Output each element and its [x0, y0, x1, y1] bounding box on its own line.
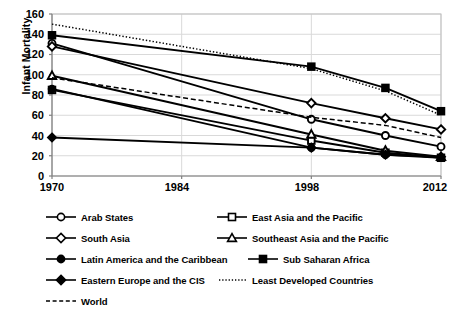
legend-item-eastern-europe-and-the-cis[interactable]: Eastern Europe and the CIS	[44, 272, 205, 288]
marker-open-circle	[438, 143, 445, 150]
legend-marker-open-circle	[44, 210, 78, 224]
x-tick-1984: 1984	[147, 181, 207, 193]
series-line	[52, 89, 441, 158]
legend-marker-filled-circle	[44, 252, 78, 266]
legend-label-world: World	[81, 296, 108, 307]
plot-area: Infant Mortality 160 140 120 100 80 60 4…	[0, 0, 453, 200]
plot-svg	[0, 0, 453, 200]
legend-marker-open-square	[215, 210, 249, 224]
marker-open-triangle	[307, 130, 315, 138]
legend-marker-open-triangle	[215, 231, 249, 245]
legend-item-south-asia[interactable]: South Asia	[44, 230, 130, 246]
legend-label-latin-america-and-the-caribbean: Latin America and the Caribbean	[81, 254, 227, 265]
marker-filled-diamond	[48, 134, 56, 142]
legend-marker-dashed-line	[44, 294, 78, 308]
legend-label-eastern-europe-and-the-cis: Eastern Europe and the CIS	[81, 275, 205, 286]
legend-label-sub-saharan-africa: Sub Saharan Africa	[283, 254, 369, 265]
x-tick-1998: 1998	[277, 181, 337, 193]
marker-open-circle	[382, 132, 389, 139]
marker-filled-circle	[49, 86, 56, 93]
legend-item-world[interactable]: World	[44, 293, 108, 309]
legend-item-arab-states[interactable]: Arab States	[44, 209, 133, 225]
marker-open-diamond	[307, 99, 315, 107]
legend-marker-dotted-line	[215, 273, 249, 287]
x-tick-2012: 2012	[405, 181, 453, 193]
legend-label-southeast-asia-and-the-pacific: Southeast Asia and the Pacific	[252, 233, 388, 244]
legend-marker-open-diamond	[44, 231, 78, 245]
legend-item-sub-saharan-africa[interactable]: Sub Saharan Africa	[246, 251, 369, 267]
legend-label-south-asia: South Asia	[81, 233, 130, 244]
marker-filled-square	[49, 32, 56, 39]
legend-item-latin-america-and-the-caribbean[interactable]: Latin America and the Caribbean	[44, 251, 227, 267]
legend-label-arab-states: Arab States	[81, 212, 133, 223]
legend-label-east-asia-and-the-pacific: East Asia and the Pacific	[252, 212, 363, 223]
chart-legend: Arab States East Asia and the Pacific So…	[0, 200, 453, 303]
marker-open-diamond	[437, 125, 445, 133]
legend-item-southeast-asia-and-the-pacific[interactable]: Southeast Asia and the Pacific	[215, 230, 388, 246]
legend-marker-filled-square	[246, 252, 280, 266]
legend-label-least-developed-countries: Least Developed Countries	[252, 275, 373, 286]
x-tick-1970: 1970	[22, 181, 82, 193]
legend-marker-filled-diamond	[44, 273, 78, 287]
legend-item-east-asia-and-the-pacific[interactable]: East Asia and the Pacific	[215, 209, 363, 225]
legend-item-least-developed-countries[interactable]: Least Developed Countries	[215, 272, 373, 288]
